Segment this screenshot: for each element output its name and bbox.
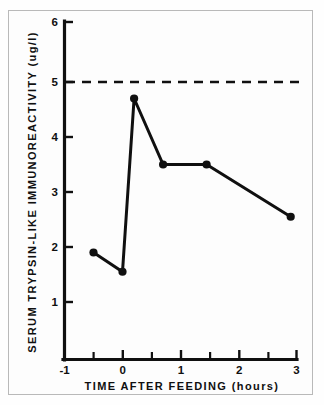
x-axis-tick-labels: -1 0 1 2 3 — [59, 364, 299, 376]
data-point — [203, 160, 211, 168]
y-tick-label: 1 — [52, 296, 59, 308]
x-axis-title: TIME AFTER FEEDING (hours) — [85, 380, 280, 392]
data-point — [89, 248, 97, 256]
x-tick-label: 0 — [120, 364, 126, 376]
data-series-markers — [89, 94, 294, 275]
data-point — [130, 94, 138, 102]
line-chart: 6 5 4 3 2 1 -1 0 1 2 3 — [0, 0, 324, 405]
y-axis-tick-labels: 6 5 4 3 2 1 — [52, 16, 59, 308]
y-axis-title: SERUM TRYPSIN-LIKE IMMUNOREACTIVITY (ug/… — [26, 31, 38, 353]
y-tick-label: 5 — [52, 76, 59, 88]
x-tick-label: 3 — [293, 364, 299, 376]
y-tick-label: 4 — [52, 131, 59, 143]
x-tick-label: 2 — [236, 364, 242, 376]
y-tick-label: 2 — [52, 241, 58, 253]
data-point — [159, 160, 167, 168]
y-tick-label: 6 — [52, 16, 58, 28]
x-axis-major-ticks — [65, 350, 297, 359]
y-tick-label: 3 — [52, 186, 58, 198]
figure-canvas: 6 5 4 3 2 1 -1 0 1 2 3 — [0, 0, 324, 405]
data-series-line — [94, 99, 291, 272]
x-tick-label: -1 — [59, 364, 70, 376]
x-tick-label: 1 — [178, 364, 185, 376]
data-point — [118, 268, 126, 276]
data-point — [287, 213, 295, 221]
